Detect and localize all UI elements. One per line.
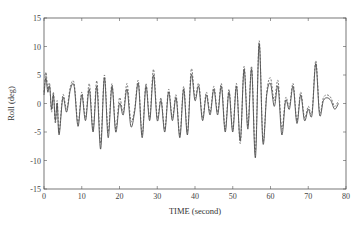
x-axis-ticks: 01020304050607080 [42, 18, 350, 201]
x-tick-label: 40 [191, 192, 199, 201]
x-tick-label: 60 [267, 192, 275, 201]
series-solid-line [44, 44, 338, 158]
y-tick-label: 0 [37, 100, 41, 109]
y-tick-label: 10 [33, 43, 41, 52]
y-axis-ticks: -15-10-5051015 [30, 14, 346, 194]
roll-time-chart: 01020304050607080 -15-10-5051015 TIME (s… [0, 0, 363, 227]
plot-frame [44, 18, 346, 189]
x-tick-label: 30 [153, 192, 161, 201]
x-tick-label: 10 [78, 192, 86, 201]
x-tick-label: 20 [116, 192, 124, 201]
x-tick-label: 50 [229, 192, 237, 201]
y-tick-label: 15 [33, 14, 41, 23]
y-tick-label: 5 [37, 71, 41, 80]
y-tick-label: -5 [34, 128, 41, 137]
x-tick-label: 80 [342, 192, 350, 201]
x-axis-label: TIME (second) [169, 206, 221, 216]
x-tick-label: 70 [304, 192, 312, 201]
y-tick-label: -15 [30, 185, 41, 194]
plot-lines [44, 41, 338, 158]
y-tick-label: -10 [30, 157, 41, 166]
x-tick-label: 0 [42, 192, 46, 201]
y-axis-label: Roll (deg) [6, 86, 16, 121]
